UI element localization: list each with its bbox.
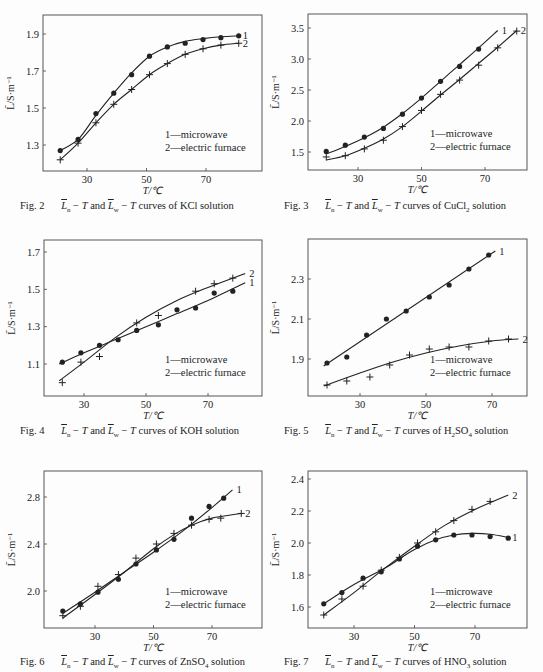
dot-marker — [58, 148, 63, 153]
dot-marker — [360, 576, 365, 581]
dot-marker — [488, 534, 493, 539]
y-tick-label: 2.0 — [291, 116, 304, 127]
plus-marker — [342, 152, 349, 159]
plus-marker — [59, 612, 66, 619]
dot-marker — [111, 91, 116, 96]
dot-marker — [97, 343, 102, 348]
y-tick-label: 2.0 — [291, 538, 304, 549]
dot-marker — [469, 532, 474, 537]
x-tick-label: 30 — [355, 399, 366, 410]
y-tick-label: 2.8 — [27, 492, 40, 503]
dot-marker — [384, 316, 389, 321]
dot-marker — [427, 294, 432, 299]
dot-marker — [129, 72, 134, 77]
dot-marker — [466, 266, 471, 271]
plus-marker — [361, 145, 368, 152]
dot-marker — [221, 496, 226, 501]
y-tick-label: 1.7 — [26, 66, 39, 77]
x-tick-label: 50 — [148, 631, 159, 642]
plus-marker — [115, 571, 122, 578]
legend-entry-2: 2—electric furnace — [165, 367, 246, 378]
dot-marker — [457, 64, 462, 69]
x-axis-label: T/℃ — [143, 410, 164, 421]
plus-marker — [206, 516, 213, 523]
plus-marker — [200, 45, 207, 52]
series-end-label: 2 — [521, 25, 526, 36]
legend-entry-1: 1—microwave — [430, 586, 493, 597]
x-tick-label: 70 — [207, 631, 218, 642]
plus-marker — [505, 336, 512, 343]
y-tick-label: 1.1 — [27, 359, 40, 370]
chart-fig6-plot: 2.02.42.8305070T/℃L̄/S·m⁻¹121—microwave2… — [6, 471, 262, 653]
y-tick-label: 1.7 — [27, 247, 40, 258]
x-tick-label: 50 — [409, 631, 420, 642]
series-end-label: 2 — [243, 38, 248, 49]
y-tick-label: 2.3 — [291, 274, 304, 285]
legend-entry-2: 2—electric furnace — [430, 367, 511, 378]
dot-marker — [93, 111, 98, 116]
series-line-1 — [59, 283, 245, 364]
chart-fig2-plot: 1.31.51.71.9305070T/℃L̄/S·m⁻¹121—microwa… — [5, 15, 262, 196]
y-tick-label: 2.0 — [27, 586, 40, 597]
dot-marker — [218, 35, 223, 40]
x-tick-label: 30 — [90, 631, 101, 642]
legend-entry-1: 1—microwave — [165, 129, 228, 140]
series-end-label: 1 — [512, 532, 517, 543]
x-axis-label: T/℃ — [143, 185, 164, 196]
chart-fig7-plot: 1.61.82.02.22.4305070T/℃L̄/S·m⁻¹121—micr… — [270, 471, 527, 653]
dot-marker — [156, 322, 161, 327]
chart-fig3-plot: 1.52.02.53.03.5305070T/℃L̄/S·m⁻¹121—micr… — [270, 14, 527, 195]
x-axis-label: T/℃ — [143, 642, 164, 653]
dot-marker — [433, 537, 438, 542]
x-tick-label: 30 — [79, 399, 90, 410]
y-tick-label: 1.3 — [26, 140, 39, 151]
y-tick-label: 1.9 — [26, 29, 39, 40]
y-tick-label: 2.2 — [291, 506, 304, 517]
y-axis-label: L̄/S·m⁻¹ — [6, 533, 17, 567]
plus-marker — [182, 51, 189, 58]
x-tick-label: 70 — [201, 174, 212, 185]
dot-marker — [174, 307, 179, 312]
plus-marker — [153, 541, 160, 548]
plus-marker — [324, 382, 331, 389]
legend-entry-2: 2—electric furnace — [430, 141, 511, 152]
plus-marker — [513, 28, 520, 35]
dot-marker — [230, 289, 235, 294]
x-tick-label: 70 — [487, 399, 498, 410]
dot-marker — [236, 33, 241, 38]
dot-marker — [324, 149, 329, 154]
y-tick-label: 1.5 — [26, 103, 39, 114]
plot-canvas: 1.31.51.71.9305070T/℃L̄/S·m⁻¹121—microwa… — [0, 0, 543, 672]
plus-marker — [133, 319, 140, 326]
dot-marker — [339, 590, 344, 595]
dot-marker — [400, 112, 405, 117]
dot-marker — [364, 332, 369, 337]
chart-fig5-plot: 1.92.12.3305070T/℃L̄/S·m⁻¹121—microwave2… — [270, 239, 528, 421]
plus-marker — [485, 338, 492, 345]
legend-entry-1: 1—microwave — [165, 586, 228, 597]
dot-marker — [476, 46, 481, 51]
x-tick-label: 30 — [82, 174, 93, 185]
x-tick-label: 70 — [470, 631, 481, 642]
y-tick-label: 1.6 — [291, 602, 304, 613]
plus-marker — [235, 40, 242, 47]
x-tick-label: 50 — [141, 399, 152, 410]
dot-marker — [321, 601, 326, 606]
x-tick-label: 70 — [480, 173, 491, 184]
plus-marker — [238, 510, 245, 517]
plus-marker — [446, 344, 453, 351]
plus-marker — [475, 62, 482, 69]
dot-marker — [506, 536, 511, 541]
x-tick-label: 30 — [349, 631, 360, 642]
dot-marker — [193, 305, 198, 310]
x-tick-label: 70 — [203, 399, 214, 410]
dot-marker — [381, 126, 386, 131]
plus-marker — [450, 517, 457, 524]
y-tick-label: 1.9 — [291, 354, 304, 365]
plus-marker — [164, 60, 171, 67]
y-tick-label: 3.5 — [291, 23, 304, 34]
series-end-label: 2 — [512, 490, 517, 501]
plus-marker — [155, 312, 162, 319]
y-axis-label: L̄/S·m⁻¹ — [270, 75, 281, 109]
legend-entry-2: 2—electric furnace — [165, 599, 246, 610]
